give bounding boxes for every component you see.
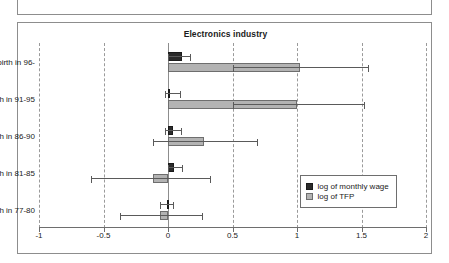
error-bar-cap: [168, 54, 169, 61]
error-bar: [165, 130, 182, 131]
legend-item: log of monthly wage: [306, 182, 389, 191]
error-bar-cap: [233, 65, 234, 72]
error-bar: [120, 215, 203, 216]
error-bar-cap: [364, 102, 365, 109]
error-bar: [153, 141, 259, 142]
error-bar-cap: [257, 139, 258, 146]
previous-panel-edge: [17, 0, 432, 15]
error-bar-cap: [233, 102, 234, 109]
bar-group: Plant birth in 86-90: [39, 117, 426, 154]
error-bar: [160, 204, 174, 205]
error-bar-cap: [202, 213, 203, 220]
category-label: Plant birth in 96-: [0, 57, 35, 66]
error-bar: [233, 104, 366, 105]
error-bar-cap: [190, 54, 191, 61]
chart-legend: log of monthly wagelog of TFP: [300, 175, 397, 208]
x-tick-label: 0.5: [227, 231, 238, 240]
error-bar: [233, 67, 370, 68]
bar-group: Plant birth in 91-95: [39, 80, 426, 117]
error-bar: [168, 56, 191, 57]
category-label: Plant birth in 81-85: [0, 168, 35, 177]
legend-label: log of TFP: [318, 192, 355, 201]
x-tick-label: -1: [35, 231, 42, 240]
error-bar-cap: [168, 165, 169, 172]
error-bar-cap: [153, 139, 154, 146]
error-bar-cap: [180, 91, 181, 98]
error-bar-cap: [165, 128, 166, 135]
gridline: [426, 43, 427, 228]
error-bar-cap: [368, 65, 369, 72]
x-tick-label: 2: [424, 231, 428, 240]
x-tick-label: 1: [295, 231, 299, 240]
error-bar-cap: [160, 202, 161, 209]
bar-group: Plant birth in 96-: [39, 43, 426, 80]
x-tick-label: 1.5: [356, 231, 367, 240]
error-bar-cap: [173, 202, 174, 209]
error-bar-cap: [210, 176, 211, 183]
chart-panel: Electronics industry Plant birth in 96-P…: [17, 22, 432, 254]
x-tick-label: 0: [166, 231, 170, 240]
figure-container: Electronics industry Plant birth in 96-P…: [0, 0, 449, 263]
legend-swatch-tfp: [306, 193, 313, 200]
error-bar-cap: [181, 128, 182, 135]
x-tick-label: -0.5: [97, 231, 111, 240]
legend-label: log of monthly wage: [318, 182, 389, 191]
legend-item: log of TFP: [306, 192, 389, 201]
error-bar-cap: [91, 176, 92, 183]
legend-swatch-wage: [306, 183, 313, 190]
error-bar-cap: [165, 91, 166, 98]
chart-title: Electronics industry: [18, 29, 433, 39]
category-label: Plant birth in 91-95: [0, 94, 35, 103]
category-label: Plant birth in 77-80: [0, 205, 35, 214]
error-bar: [168, 167, 183, 168]
error-bar-cap: [182, 165, 183, 172]
error-bar: [91, 178, 211, 179]
category-label: Plant birth in 86-90: [0, 131, 35, 140]
error-bar: [165, 93, 180, 94]
error-bar-cap: [120, 213, 121, 220]
